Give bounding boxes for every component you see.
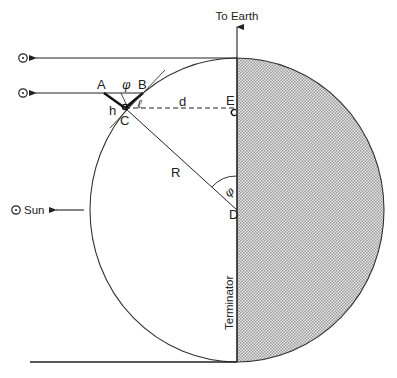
point-c-label: C	[120, 113, 129, 128]
radius-line	[125, 108, 237, 210]
terminator-label: Terminator	[223, 276, 235, 330]
label-d: d	[179, 94, 186, 109]
to-earth-label: To Earth	[216, 10, 259, 22]
label-h: h	[109, 103, 116, 118]
point-e-label: E	[226, 93, 235, 108]
label-r: R	[171, 165, 180, 180]
sun-label: Sun	[24, 204, 44, 216]
diagram-canvas: To Earth Sun A B C D E h ℓ d R	[0, 0, 397, 378]
sun-symbol-icon	[19, 89, 27, 97]
label-l: ℓ	[137, 97, 142, 111]
point-a-label: A	[97, 77, 106, 92]
point-b-label: B	[138, 77, 147, 92]
sun-direction: Sun	[12, 204, 84, 216]
sun-symbol-icon	[19, 54, 27, 62]
angle-arc-d	[212, 176, 237, 187]
moon-geometry-diagram: To Earth Sun A B C D E h ℓ d R	[0, 0, 397, 378]
point-d-label: D	[229, 207, 238, 222]
angle-phi-top: φ	[122, 78, 131, 92]
right-angle-mark-e	[231, 110, 236, 116]
